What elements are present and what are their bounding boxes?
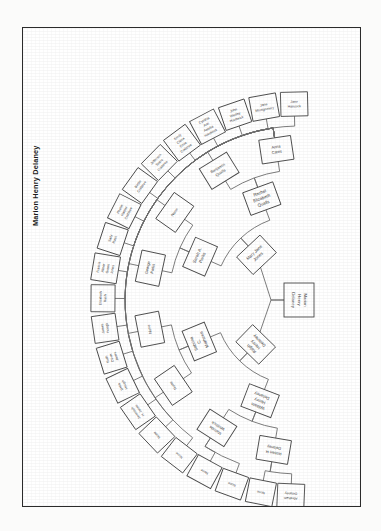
fan-node-label: JamesHough (100, 322, 110, 333)
fan-node[interactable]: GeorgeParks (135, 250, 165, 286)
fan-node[interactable]: None (245, 478, 276, 506)
fan-node[interactable]: RachelElizabethQualls (243, 182, 281, 216)
fan-node[interactable]: JamesHough (91, 313, 119, 343)
fan-node[interactable]: JaneHancock (280, 92, 308, 117)
fan-node[interactable]: SallyRush (97, 222, 128, 255)
fan-chart-svg: MarionHenryDelaneyRalphHenryDelaneyMary … (23, 28, 360, 506)
fan-node[interactable]: None (135, 311, 165, 347)
scanned-page: Marion Henry Delaney MarionHenryDelaneyR… (22, 27, 361, 507)
fan-node[interactable]: FrancisAbnerGreenJones (91, 253, 121, 284)
fan-node[interactable]: None (156, 192, 194, 232)
fan-node[interactable]: ElizabethRush (91, 285, 115, 312)
fan-node-label: AbrahamDelaney (284, 491, 298, 500)
fan-node[interactable]: None (215, 468, 249, 500)
fan-node[interactable]: JohnWesleyHardwick (218, 99, 251, 130)
fan-link (123, 200, 175, 386)
fan-node[interactable]: WilliamHenryDelaney (241, 384, 279, 418)
fan-node[interactable]: MarionHenryDelaney (284, 283, 314, 317)
fan-node[interactable]: SabrinaC.Mathews (182, 322, 216, 361)
fan-node[interactable]: Sarah A.Parks (183, 237, 218, 276)
fan-node[interactable]: AnnaCates (259, 135, 294, 164)
fan-chart-canvas: MarionHenryDelaneyRalphHenryDelaneyMary … (23, 28, 360, 506)
fan-node[interactable]: Robert H.Delaney (256, 435, 292, 464)
fan-node[interactable]: MalindaWhitlock (197, 409, 237, 446)
fan-node[interactable]: BenjaminQualls (199, 152, 239, 189)
fan-node[interactable]: Mary JaneJones (237, 235, 277, 274)
fan-node[interactable]: AbrahamDelaney (277, 483, 305, 506)
fan-node[interactable]: JaneMontgomery (249, 93, 280, 121)
fan-node[interactable]: RuthOliverJones (96, 341, 127, 374)
fan-node[interactable]: None (154, 365, 192, 405)
